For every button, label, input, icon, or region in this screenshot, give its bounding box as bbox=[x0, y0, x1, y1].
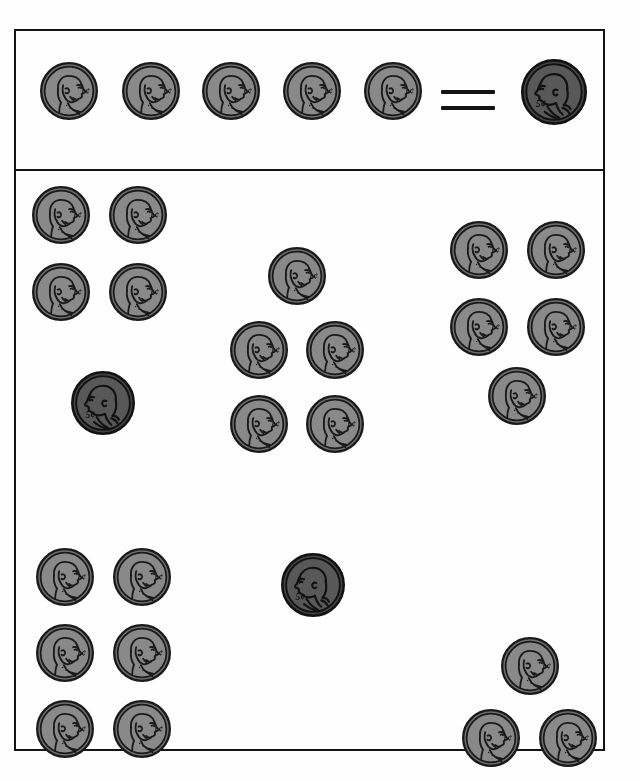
penny-denomination-label: 1¢ bbox=[405, 86, 415, 96]
penny-coin[interactable]: 1¢ bbox=[122, 62, 180, 120]
equivalence-key-band: 1¢1¢1¢1¢1¢5¢ bbox=[16, 31, 603, 171]
nickel-coin[interactable]: 5¢ bbox=[521, 59, 587, 125]
nickel-denomination-label: 5¢ bbox=[536, 98, 546, 109]
penny-denomination-label: 1¢ bbox=[81, 86, 91, 96]
penny-denomination-label: 1¢ bbox=[243, 86, 253, 96]
group-row2-right[interactable]: 1¢1¢1¢ bbox=[16, 171, 603, 749]
penny-coin[interactable]: 1¢ bbox=[539, 709, 597, 767]
penny-denomination-label: 1¢ bbox=[163, 86, 173, 96]
penny-coin[interactable]: 1¢ bbox=[501, 637, 559, 695]
worksheet-page: 1¢1¢1¢1¢1¢5¢ 1¢1¢1¢1¢5¢1¢1¢1¢1¢1¢1¢1¢1¢1… bbox=[0, 0, 639, 781]
equals-bar-top bbox=[441, 90, 495, 94]
penny-denomination-label: 1¢ bbox=[542, 661, 552, 671]
penny-coin[interactable]: 1¢ bbox=[364, 62, 422, 120]
penny-denomination-label: 1¢ bbox=[503, 733, 513, 743]
penny-denomination-label: 1¢ bbox=[580, 733, 590, 743]
penny-coin[interactable]: 1¢ bbox=[283, 62, 341, 120]
equals-bar-bottom bbox=[441, 106, 495, 110]
penny-coin[interactable]: 1¢ bbox=[40, 62, 98, 120]
equals-sign-icon bbox=[441, 88, 495, 114]
coin-groups-area: 1¢1¢1¢1¢5¢1¢1¢1¢1¢1¢1¢1¢1¢1¢1¢1¢1¢1¢1¢1¢… bbox=[16, 171, 603, 749]
worksheet-frame: 1¢1¢1¢1¢1¢5¢ 1¢1¢1¢1¢5¢1¢1¢1¢1¢1¢1¢1¢1¢1… bbox=[14, 29, 605, 751]
penny-coin[interactable]: 1¢ bbox=[462, 709, 520, 767]
penny-coin[interactable]: 1¢ bbox=[202, 62, 260, 120]
penny-denomination-label: 1¢ bbox=[324, 86, 334, 96]
